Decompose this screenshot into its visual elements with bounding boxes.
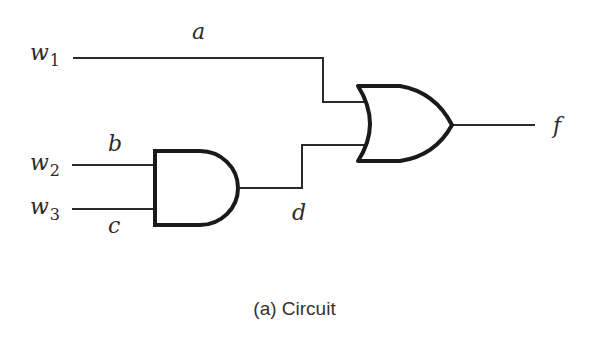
circuit-diagram: w1 w2 w3 a b c d f (a) Circuit <box>0 0 589 338</box>
wire-label-a: a <box>192 21 205 43</box>
wire-label-d: d <box>292 202 306 224</box>
wire-d <box>240 145 366 188</box>
or-gate <box>358 86 452 161</box>
and-gate <box>155 151 238 225</box>
output-label-f: f <box>553 115 561 137</box>
figure-caption: (a) Circuit <box>0 298 589 320</box>
wire-label-b: b <box>108 133 122 155</box>
wire-label-c: c <box>108 215 120 237</box>
input-label-w2: w2 <box>30 152 60 174</box>
input-label-w1: w1 <box>30 42 60 64</box>
input-label-w3: w3 <box>30 196 60 218</box>
circuit-wires <box>0 0 589 338</box>
wire-a <box>73 58 364 102</box>
